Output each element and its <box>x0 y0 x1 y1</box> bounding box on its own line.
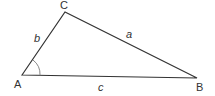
angle-a-arc <box>33 60 40 75</box>
side-label-c: c <box>98 81 104 93</box>
vertex-label-b: B <box>196 81 203 93</box>
vertex-label-a: A <box>14 78 22 90</box>
vertex-label-c: C <box>60 0 68 11</box>
triangle-abc <box>22 12 197 78</box>
triangle-diagram: A B C a b c <box>0 0 215 96</box>
side-label-b: b <box>34 32 40 44</box>
side-label-a: a <box>126 28 132 40</box>
